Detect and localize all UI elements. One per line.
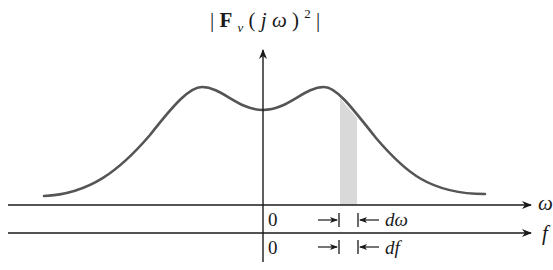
shaded-strip (340, 98, 357, 205)
power-spectrum-diagram: | F v ( j ω ) 2 | ω f 0 0 dω (0, 0, 553, 270)
y-axis-label: | F v ( j ω ) 2 | (210, 0, 320, 37)
d-omega-label: dω (385, 209, 408, 230)
d-omega-interval-marker (318, 213, 379, 227)
spectrum-curve (44, 87, 485, 196)
f-axis-label: f (542, 221, 551, 245)
df-interval-marker (318, 240, 379, 254)
df-label: df (385, 237, 403, 258)
f-origin-label: 0 (268, 237, 278, 258)
omega-origin-label: 0 (268, 209, 278, 230)
omega-axis-label: ω (538, 191, 553, 215)
